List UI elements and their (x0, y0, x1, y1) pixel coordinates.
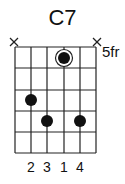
root-dot (56, 50, 73, 67)
finger-label: 4 (72, 159, 88, 175)
mute-icon (10, 38, 101, 46)
finger-label: 2 (23, 159, 39, 175)
finger-label: 3 (39, 159, 55, 175)
finger-dot (41, 115, 53, 127)
chord-diagram (0, 0, 125, 184)
start-fret-label: 5fr (102, 43, 120, 60)
finger-label: 1 (56, 159, 72, 175)
finger-dot (25, 94, 37, 106)
finger-dot (74, 115, 86, 127)
